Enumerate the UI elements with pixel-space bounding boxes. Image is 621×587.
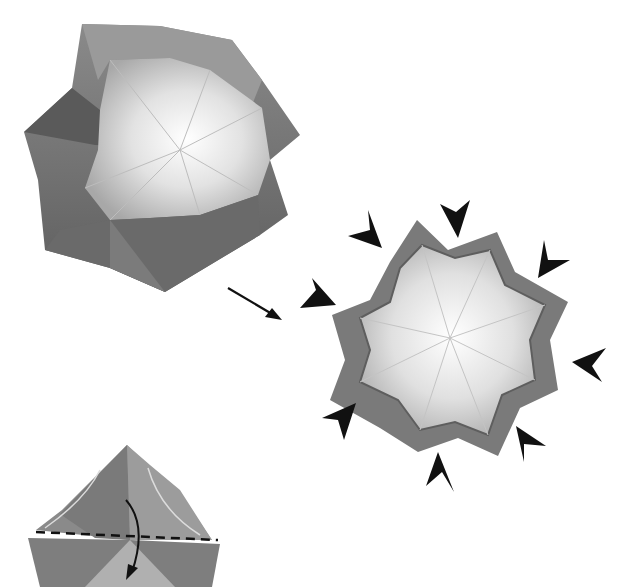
step-c-photo — [0, 430, 260, 587]
step-a-photo — [0, 0, 320, 300]
arrowhead-icon — [572, 348, 606, 382]
arrowhead-icon — [516, 426, 546, 462]
arrowhead-icon — [426, 452, 454, 492]
arrowhead-icon — [538, 240, 570, 278]
step-b-photo — [290, 190, 621, 500]
arrow-right-down-icon — [210, 270, 300, 340]
arrowhead-icon — [440, 200, 470, 238]
origami-fold-step — [0, 430, 260, 587]
origami-star-form — [290, 190, 621, 500]
arrowhead-icon — [322, 403, 356, 440]
arrowhead-icon — [300, 278, 336, 308]
arrowhead-icon — [348, 210, 382, 248]
origami-open-form — [0, 0, 320, 300]
